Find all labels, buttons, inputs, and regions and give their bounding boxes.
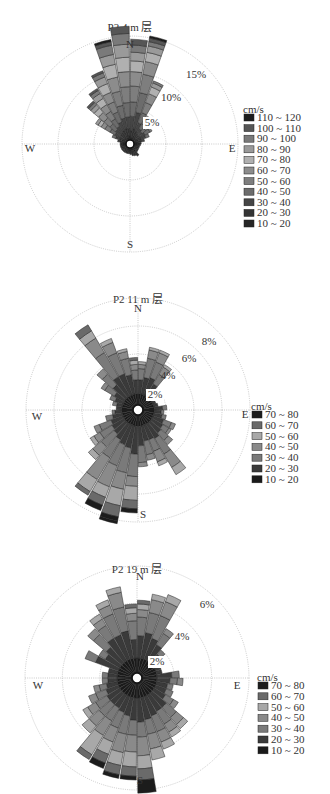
rose-wedge	[131, 61, 144, 73]
rose-wedge	[122, 751, 136, 767]
rose-wedge	[171, 671, 179, 678]
ring-label: 4%	[161, 369, 176, 381]
compass-n: N	[134, 302, 142, 314]
legend-swatch	[252, 443, 262, 450]
rose-wedge	[123, 485, 138, 500]
legend-swatch	[258, 714, 268, 721]
compass-s: S	[140, 508, 146, 520]
rose-wedge	[137, 610, 148, 618]
legend-swatch	[244, 156, 254, 163]
rose-wedge	[116, 57, 130, 72]
rose-wedge	[118, 72, 130, 88]
legend-label: 10 ~ 20	[265, 473, 299, 485]
rose-wedge	[120, 144, 122, 146]
legend-swatch	[252, 476, 262, 483]
compass-w: W	[25, 142, 36, 154]
legend-swatch	[244, 188, 254, 195]
rose-wedge	[131, 52, 146, 62]
legend-swatch	[244, 220, 254, 227]
compass-w: W	[32, 410, 43, 422]
rose-wedge	[129, 357, 137, 360]
ring-label: 10%	[161, 91, 181, 103]
wind-rose-figure: P2 4 m 层5%10%15%NESWcm/s110 ~ 120100 ~ 1…	[0, 0, 330, 794]
rose-chart-1: P2 4 m 层5%10%15%NESWcm/s110 ~ 120100 ~ 1…	[22, 21, 302, 252]
ring-label: 6%	[182, 352, 197, 364]
ring-label: 4%	[175, 630, 190, 642]
rose-wedge	[126, 613, 136, 621]
rose-wedge	[85, 651, 98, 663]
rose-wedge	[125, 608, 136, 615]
legend-swatch	[244, 146, 254, 153]
ring-label: 2%	[150, 655, 165, 667]
rose-wedge	[112, 410, 115, 414]
legend-label: 10 ~ 20	[257, 217, 291, 229]
rose-wedge	[161, 410, 164, 414]
ring-label: 15%	[186, 68, 206, 80]
legend-swatch	[252, 411, 262, 418]
rose-wedge	[177, 678, 183, 685]
legend-swatch	[258, 747, 268, 754]
rose-wedge	[130, 151, 132, 154]
legend-swatch	[258, 704, 268, 711]
rose-wedge	[110, 26, 129, 35]
rose-chart-2: P2 11 m 层2%4%6%8%NESWcm/s70 ~ 8060 ~ 705…	[26, 293, 299, 524]
rose-wedge	[138, 755, 153, 769]
rose-wedge	[102, 678, 108, 684]
rose-chart-3: P2 19 m 层2%4%6%NESWcm/s70 ~ 8060 ~ 7050 …	[25, 563, 305, 793]
ring-label: 5%	[145, 116, 160, 128]
legend-swatch	[244, 135, 254, 142]
legend-swatch	[252, 465, 262, 472]
legend-swatch	[258, 693, 268, 700]
rose-wedge	[138, 362, 146, 365]
ring-label: 2%	[148, 388, 163, 400]
rose-wedge	[162, 405, 167, 410]
rose-wedge	[121, 766, 137, 777]
compass-n: N	[126, 38, 134, 50]
rose-wedge	[137, 142, 141, 144]
compass-s: S	[127, 238, 133, 250]
legend-swatch	[258, 682, 268, 689]
compass-e: E	[234, 679, 241, 691]
legend-swatch	[244, 178, 254, 185]
legend-swatch	[244, 167, 254, 174]
legend-swatch	[252, 454, 262, 461]
center-hole	[126, 140, 134, 148]
rose-wedge	[125, 476, 137, 487]
ring-label: 8%	[202, 335, 217, 347]
compass-w: W	[33, 679, 44, 691]
rose-wedge	[170, 678, 178, 685]
legend-swatch	[258, 736, 268, 743]
compass-s: S	[137, 774, 143, 786]
center-hole	[133, 405, 143, 415]
compass-n: N	[136, 570, 144, 582]
center-hole	[132, 673, 142, 683]
legend-swatch	[244, 125, 254, 132]
legend-swatch	[244, 199, 254, 206]
legend-swatch	[244, 114, 254, 121]
legend-swatch	[252, 433, 262, 440]
compass-e: E	[242, 408, 249, 420]
rose-wedge	[122, 499, 138, 509]
legend-swatch	[244, 209, 254, 216]
legend-swatch	[252, 422, 262, 429]
ring-label: 6%	[200, 598, 215, 610]
rose-wedge	[138, 462, 147, 467]
rose-wedge	[130, 364, 137, 370]
legend: cm/s110 ~ 120100 ~ 11090 ~ 10080 ~ 9070 …	[243, 103, 302, 229]
rose-wedge	[102, 672, 108, 678]
legend-label: 10 ~ 20	[271, 744, 305, 756]
legend: cm/s70 ~ 8060 ~ 7050 ~ 6040 ~ 5030 ~ 402…	[251, 400, 299, 485]
legend-swatch	[258, 725, 268, 732]
compass-e: E	[229, 142, 236, 154]
rose-wedge	[125, 734, 137, 752]
legend: cm/s70 ~ 8060 ~ 7050 ~ 6040 ~ 5030 ~ 402…	[257, 671, 305, 756]
rose-wedge	[130, 72, 142, 87]
rose-wedge	[125, 604, 137, 609]
